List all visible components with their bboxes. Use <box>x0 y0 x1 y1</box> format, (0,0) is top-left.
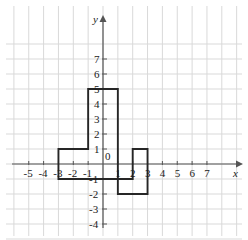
coordinate-plane-figure: -5-4-3-2-112345677654321-1-2-3-40xy <box>0 0 248 240</box>
x-tick-label-2: 2 <box>130 168 136 179</box>
y-tick-label-neg1: -1 <box>89 174 98 185</box>
x-tick-label-7: 7 <box>204 168 210 179</box>
x-tick-label-neg4: -4 <box>38 168 47 179</box>
y-tick-label-6: 6 <box>94 69 100 80</box>
origin-label: 0 <box>105 151 111 162</box>
plot-canvas <box>0 0 248 240</box>
x-axis-name: x <box>233 168 238 179</box>
x-tick-label-neg3: -3 <box>53 168 62 179</box>
x-tick-label-3: 3 <box>145 168 151 179</box>
y-tick-label-1: 1 <box>94 144 100 155</box>
y-tick-label-neg4: -4 <box>89 219 98 230</box>
y-tick-label-3: 3 <box>94 114 100 125</box>
y-tick-label-4: 4 <box>94 99 100 110</box>
y-tick-label-5: 5 <box>94 84 100 95</box>
y-tick-label-7: 7 <box>94 54 100 65</box>
y-tick-label-neg3: -3 <box>89 204 98 215</box>
x-tick-label-neg5: -5 <box>24 168 33 179</box>
grid-lines <box>6 6 242 239</box>
y-tick-label-neg2: -2 <box>89 189 98 200</box>
x-tick-label-neg2: -2 <box>68 168 77 179</box>
axis-lines <box>12 15 243 228</box>
y-tick-label-2: 2 <box>94 129 100 140</box>
x-tick-label-6: 6 <box>190 168 196 179</box>
x-tick-label-5: 5 <box>175 168 181 179</box>
x-tick-label-1: 1 <box>115 168 121 179</box>
y-axis-name: y <box>93 14 98 25</box>
x-tick-label-4: 4 <box>160 168 166 179</box>
